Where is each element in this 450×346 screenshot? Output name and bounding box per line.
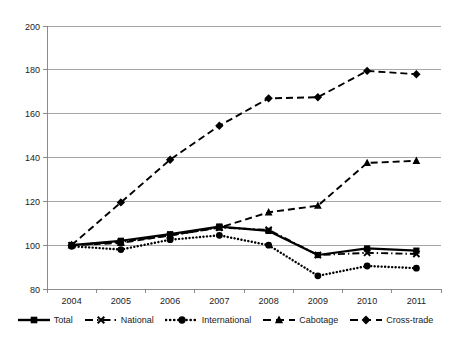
x-axis-tick-label: 2009 bbox=[308, 296, 328, 306]
legend-item-cabotage[interactable]: Cabotage bbox=[262, 313, 338, 327]
y-axis-tick-label: 180 bbox=[25, 65, 40, 75]
data-point-marker bbox=[215, 122, 223, 130]
x-axis-tick-label: 2010 bbox=[357, 296, 377, 306]
data-point-marker bbox=[216, 232, 223, 239]
data-point-marker bbox=[314, 272, 321, 279]
y-axis-tick-label: 160 bbox=[25, 109, 40, 119]
y-axis-tick-label: 140 bbox=[25, 153, 40, 163]
legend-key-cabotage bbox=[262, 313, 296, 327]
data-point-marker bbox=[265, 242, 272, 249]
legend-key-cross-trade bbox=[349, 313, 383, 327]
y-axis-tick-label: 200 bbox=[25, 22, 40, 32]
legend-item-label: Total bbox=[54, 315, 73, 325]
legend-marker bbox=[178, 316, 185, 323]
legend-item-label: National bbox=[121, 315, 154, 325]
x-axis-tick-label: 2005 bbox=[111, 296, 131, 306]
chart-legend: TotalNationalInternationalCabotageCross-… bbox=[0, 313, 450, 327]
legend-key-national bbox=[84, 313, 118, 327]
legend-item-national[interactable]: National bbox=[84, 313, 154, 327]
x-axis-tick-label: 2008 bbox=[259, 296, 279, 306]
data-point-marker bbox=[363, 67, 371, 75]
legend-marker bbox=[362, 316, 371, 325]
x-axis-tick-label: 2007 bbox=[209, 296, 229, 306]
legend-item-international[interactable]: International bbox=[165, 313, 252, 327]
y-axis-tick-label: 80 bbox=[30, 285, 40, 295]
line-chart: 8010012014016018020020042005200620072008… bbox=[0, 0, 450, 346]
data-point-marker bbox=[314, 93, 322, 101]
data-point-marker bbox=[117, 246, 124, 253]
chart-plot-area: 8010012014016018020020042005200620072008… bbox=[0, 0, 450, 346]
data-point-marker bbox=[264, 94, 272, 102]
legend-item-label: International bbox=[202, 315, 252, 325]
x-axis-tick-label: 2006 bbox=[160, 296, 180, 306]
legend-item-label: Cross-trade bbox=[386, 315, 433, 325]
y-axis-tick-label: 120 bbox=[25, 197, 40, 207]
legend-item-cross-trade[interactable]: Cross-trade bbox=[349, 313, 433, 327]
legend-key-total bbox=[17, 313, 51, 327]
data-point-marker bbox=[412, 70, 420, 78]
data-point-marker bbox=[364, 263, 371, 270]
y-axis-tick-label: 100 bbox=[25, 241, 40, 251]
legend-key-international bbox=[165, 313, 199, 327]
data-point-marker bbox=[413, 265, 420, 272]
data-point-marker bbox=[363, 159, 371, 166]
x-axis-tick-label: 2004 bbox=[62, 296, 82, 306]
legend-item-total[interactable]: Total bbox=[17, 313, 73, 327]
series-line-cross-trade bbox=[72, 71, 417, 245]
x-axis-tick-label: 2011 bbox=[407, 296, 426, 306]
legend-item-label: Cabotage bbox=[299, 315, 338, 325]
legend-marker bbox=[30, 317, 37, 324]
